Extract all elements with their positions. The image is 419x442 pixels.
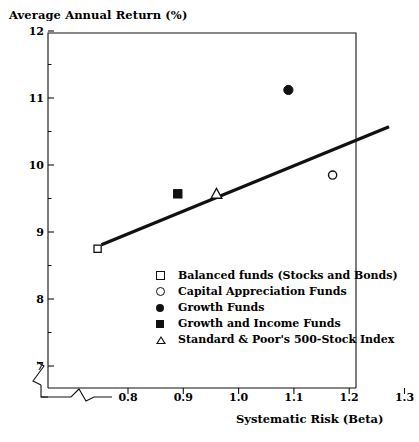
legend-item-label: Balanced funds (Stocks and Bonds) bbox=[178, 270, 398, 281]
legend-item-label: Capital Appreciation Funds bbox=[178, 286, 347, 297]
legend-item: Growth and Income Funds bbox=[156, 316, 398, 331]
legend-item: Standard & Poor's 500-Stock Index bbox=[156, 332, 398, 347]
open-triangle-icon bbox=[156, 336, 178, 344]
legend-item-label: Growth Funds bbox=[178, 302, 264, 313]
legend-item-label: Standard & Poor's 500-Stock Index bbox=[178, 334, 394, 345]
data-point-open-triangle bbox=[211, 188, 222, 198]
x-axis-tick-label: 1.3 bbox=[385, 392, 419, 403]
x-axis-break-symbol bbox=[41, 389, 112, 401]
y-axis-break-stub bbox=[41, 385, 48, 397]
data-point-filled-square bbox=[174, 190, 182, 198]
data-point-filled-circle bbox=[284, 85, 293, 94]
legend-item: Balanced funds (Stocks and Bonds) bbox=[156, 268, 398, 283]
open-circle-glyph bbox=[156, 287, 165, 296]
trendline bbox=[101, 127, 389, 245]
open-circle-icon bbox=[156, 287, 178, 296]
data-point-open-circle bbox=[329, 171, 337, 179]
filled-square-glyph bbox=[156, 320, 164, 328]
filled-circle-glyph bbox=[156, 304, 164, 312]
y-axis-break-symbol bbox=[33, 362, 44, 385]
open-square-icon bbox=[156, 271, 178, 280]
data-point-open-square bbox=[94, 245, 101, 252]
filled-circle-icon bbox=[156, 304, 178, 312]
chart-legend: Balanced funds (Stocks and Bonds)Capital… bbox=[156, 268, 398, 347]
trendline-layer bbox=[101, 127, 389, 245]
legend-item: Capital Appreciation Funds bbox=[156, 284, 398, 299]
legend-item-label: Growth and Income Funds bbox=[178, 318, 341, 329]
data-points-layer bbox=[94, 85, 337, 252]
legend-item: Growth Funds bbox=[156, 300, 398, 315]
open-triangle-glyph bbox=[156, 336, 166, 344]
open-square-glyph bbox=[156, 271, 165, 280]
filled-square-icon bbox=[156, 320, 178, 328]
